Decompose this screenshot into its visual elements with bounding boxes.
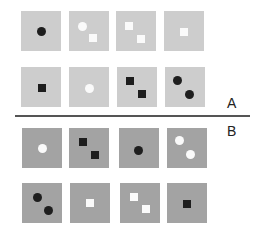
white-circle-icon	[175, 136, 184, 145]
white-square-icon	[86, 199, 94, 207]
tile-a-1-4	[164, 11, 204, 51]
white-square-icon	[89, 34, 97, 42]
tile-b-1-1	[22, 128, 62, 168]
black-square-icon	[91, 151, 99, 159]
tile-b-2-2	[70, 183, 110, 223]
section-divider	[15, 115, 250, 117]
tile-a-2-1	[21, 67, 61, 107]
black-circle-icon	[173, 76, 182, 85]
section-label-a: A	[227, 95, 236, 111]
tile-a-2-2	[69, 67, 109, 107]
tile-a-1-1	[21, 11, 61, 51]
black-circle-icon	[37, 27, 46, 36]
black-square-icon	[183, 200, 191, 208]
white-square-icon	[125, 22, 133, 30]
white-circle-icon	[186, 150, 195, 159]
tile-b-2-4	[167, 183, 207, 223]
black-circle-icon	[44, 206, 53, 215]
black-square-icon	[38, 84, 46, 92]
black-circle-icon	[185, 90, 194, 99]
tile-b-1-2	[69, 128, 109, 168]
section-label-b: B	[227, 123, 236, 139]
black-square-icon	[126, 77, 134, 85]
white-circle-icon	[38, 144, 47, 153]
tile-a-1-3	[116, 11, 156, 51]
tile-b-2-3	[120, 183, 160, 223]
black-circle-icon	[33, 193, 42, 202]
tile-a-2-3	[117, 67, 157, 107]
white-square-icon	[180, 28, 188, 36]
white-square-icon	[137, 35, 145, 43]
tile-a-2-4	[165, 67, 205, 107]
tile-b-1-4	[167, 128, 207, 168]
white-square-icon	[142, 205, 150, 213]
black-square-icon	[79, 138, 87, 146]
white-circle-icon	[85, 84, 94, 93]
tile-a-1-2	[69, 11, 109, 51]
white-circle-icon	[78, 22, 87, 31]
white-square-icon	[130, 193, 138, 201]
black-circle-icon	[134, 146, 143, 155]
black-square-icon	[138, 90, 146, 98]
tile-b-1-3	[119, 128, 159, 168]
tile-b-2-1	[22, 183, 62, 223]
